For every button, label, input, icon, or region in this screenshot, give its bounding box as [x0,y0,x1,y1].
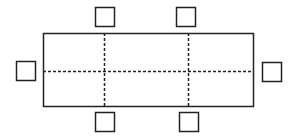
seat-top-left [96,8,115,27]
seat-bottom-right [180,113,199,132]
seat-right [263,63,282,82]
table-outline [44,34,254,107]
seat-left [17,62,36,81]
seat-top-right [177,8,196,27]
table-seating-diagram [0,0,297,137]
seat-bottom-left [96,113,115,132]
